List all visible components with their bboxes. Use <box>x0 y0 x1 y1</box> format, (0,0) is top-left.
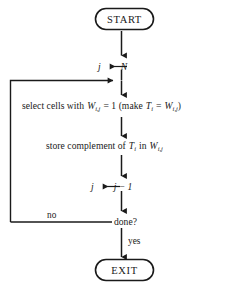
flowchart-canvas: START jN select cells withWi,j= 1 (makeT… <box>0 0 225 291</box>
store-w-variable: W <box>150 140 158 151</box>
select-equals-one: = 1 (make <box>103 100 142 111</box>
init-target-variable: j <box>98 61 101 72</box>
select-w2-subscript: i,j <box>173 105 178 112</box>
select-w2-variable: W <box>165 100 173 111</box>
store-w-subscript: i,j <box>158 145 163 152</box>
init-source-variable: N <box>121 61 127 72</box>
store-complement-statement: store complement ofTiinWi,j <box>46 141 163 151</box>
decrement-assignment: jj − 1 <box>91 182 132 192</box>
init-assignment: jN <box>98 62 127 72</box>
store-in-keyword: in <box>139 140 147 151</box>
decision-label: done? <box>114 217 137 227</box>
select-prefix-text: select cells with <box>22 100 84 111</box>
store-prefix-text: store complement of <box>46 140 126 151</box>
decrement-expression: j − 1 <box>114 181 133 192</box>
select-cells-statement: select cells withWi,j= 1 (makeTi=Wi,j) <box>22 101 181 111</box>
decrement-target-variable: j <box>91 181 94 192</box>
yes-branch-label: yes <box>128 237 140 246</box>
start-terminal-label: START <box>96 15 154 26</box>
no-branch-label: no <box>47 211 56 220</box>
select-w-subscript: i,j <box>95 105 100 112</box>
select-equals-sign: = <box>156 100 161 111</box>
select-t-subscript: i <box>151 105 153 112</box>
select-closing-paren: ) <box>178 100 181 111</box>
exit-terminal-label: EXIT <box>96 266 154 277</box>
select-w-variable: W <box>87 100 95 111</box>
store-t-subscript: i <box>134 145 136 152</box>
